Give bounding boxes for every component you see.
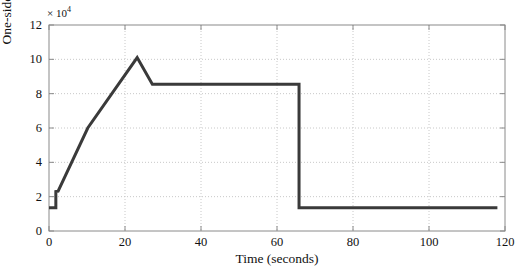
x-tick-label: 100 [420,236,439,249]
y-axis-title: One-sided Track Resistance (N) [0,0,18,61]
y-tick-label: 4 [8,156,42,169]
x-tick-label: 20 [119,236,132,249]
y-tick-label: 8 [8,87,42,100]
y-tick-label: 6 [8,122,42,135]
x-axis-title: Time (seconds) [49,252,505,266]
y-tick-label: 0 [8,225,42,238]
x-tick-label: 60 [271,236,284,249]
y-tick-label: 2 [8,190,42,203]
data-series-group [49,58,497,208]
data-line [49,58,497,208]
x-tick-label: 40 [195,236,208,249]
plot-canvas [0,0,525,277]
x-tick-label: 120 [496,236,515,249]
gridlines [49,25,505,231]
x-tick-label: 80 [347,236,360,249]
x-tick-label: 0 [46,236,52,249]
chart-figure: × 104 024681012 020406080100120 Time (se… [0,0,525,277]
